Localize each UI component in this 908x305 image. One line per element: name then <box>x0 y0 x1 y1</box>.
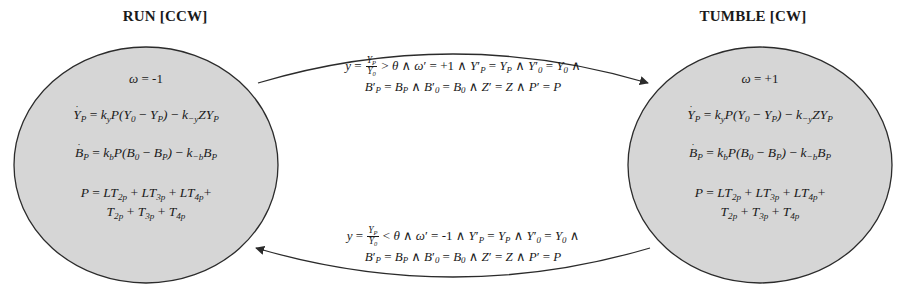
equation-p-tumble: P = LT2p + LT3p + LT4p+ T2p + T3p + T4p <box>628 184 892 223</box>
guard-fraction: YP Y0 <box>366 56 377 78</box>
guard-relation: < <box>383 228 390 243</box>
equation-p-run: P = LT2p + LT3p + LT4p+ T2p + T3p + T4p <box>14 184 278 223</box>
transition-label-run-to-tumble: y = YP Y0 > θ ∧ ω′ = +1 ∧ Y′P = YP ∧ Y′0… <box>268 56 658 97</box>
transition-label-line2: B′P = BP ∧ B′0 = B0 ∧ Z′ = Z ∧ P′ = P <box>268 78 658 97</box>
transition-label-line1: y = YP Y0 > θ ∧ ω′ = +1 ∧ Y′P = YP ∧ Y′0… <box>268 56 658 78</box>
guard-relation: > <box>381 58 388 73</box>
state-title-run: RUN [CCW] <box>85 8 245 25</box>
transition-label-line2: B′P = BP ∧ B′0 = B0 ∧ Z′ = Z ∧ P′ = P <box>268 248 658 267</box>
equation-ydot-run: ẎP = kyP(Y0 − YP) − k−yZYP <box>14 108 278 124</box>
equation-ydot-tumble: ẎP = kyP(Y0 − YP) − k−yZYP <box>628 108 892 124</box>
equation-bdot-run: ḂP = kbP(B0 − BP) − k−bBP <box>14 146 278 162</box>
state-body-run: ω = -1 ẎP = kyP(Y0 − YP) − k−yZYP ḂP =… <box>14 72 278 222</box>
state-body-tumble: ω = +1 ẎP = kyP(Y0 − YP) − k−yZYP ḂP =… <box>628 72 892 222</box>
equation-omega-tumble: ω = +1 <box>628 72 892 85</box>
reset-omega-value: -1 <box>442 228 453 243</box>
equation-bdot-tumble: ḂP = kbP(B0 − BP) − k−bBP <box>628 146 892 162</box>
equation-omega-run: ω = -1 <box>14 72 278 85</box>
transition-label-line1: y = YP Y0 < θ ∧ ω′ = -1 ∧ Y′P = YP ∧ Y′0… <box>268 226 658 248</box>
omega-value-tumble: +1 <box>765 71 779 86</box>
diagram-canvas: RUN [CCW] TUMBLE [CW] ω = -1 ẎP = kyP(Y… <box>0 0 908 305</box>
guard-fraction: YP Y0 <box>367 226 378 248</box>
omega-value-run: -1 <box>152 71 163 86</box>
state-title-tumble: TUMBLE [CW] <box>663 8 843 25</box>
transition-label-tumble-to-run: y = YP Y0 < θ ∧ ω′ = -1 ∧ Y′P = YP ∧ Y′0… <box>268 226 658 267</box>
reset-omega-value: +1 <box>440 58 454 73</box>
